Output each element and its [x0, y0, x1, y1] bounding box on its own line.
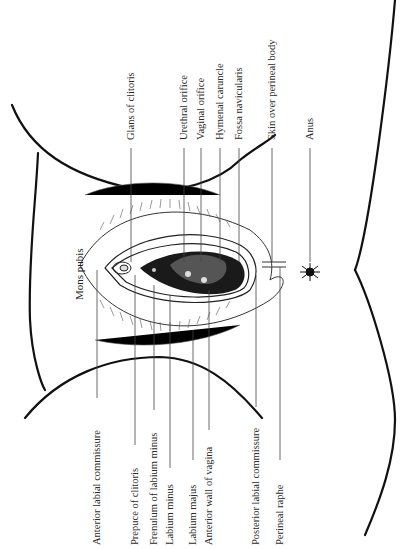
label-urethral-orifice: Urethral orifice — [178, 75, 190, 140]
label-perineal-raphe: Perineal raphe — [274, 485, 286, 545]
label-prepuce-of-clitoris: Prepuce of clitoris — [129, 468, 141, 545]
leader-lines-top — [131, 148, 310, 262]
label-labium-majus: Labium majus — [187, 485, 199, 545]
label-labium-minus: Labium minus — [164, 484, 176, 545]
label-anterior-wall-of-vagina: Anterior wall of vagina — [203, 447, 215, 545]
label-anterior-labial-commissure: Anterior labial commissure — [91, 430, 103, 545]
label-hymenal-caruncle: Hymenal caruncle — [214, 63, 226, 140]
label-anus: Anus — [304, 118, 316, 140]
label-fossa-navicularis: Fossa navicularis — [233, 67, 245, 140]
clitoris — [113, 262, 131, 274]
region-label-mons-pubis: Mons pubis — [73, 248, 85, 300]
label-frenulum-of-labium-minus: Frenulum of labium minus — [148, 433, 160, 545]
label-posterior-labial-commissure: Posterior labial commissure — [250, 428, 262, 545]
perineal-body-marker — [262, 262, 286, 267]
label-skin-over-perineal-body: Skin over perineal body — [266, 39, 278, 140]
label-glans-of-clitoris: Glans of clitoris — [125, 72, 137, 140]
anatomy-figure: Mons pubis Glans of clitoris Urethral or… — [0, 0, 408, 548]
vaginal-orifice — [140, 252, 245, 295]
label-vaginal-orifice: Vaginal orifice — [195, 78, 207, 140]
anus — [300, 263, 320, 281]
